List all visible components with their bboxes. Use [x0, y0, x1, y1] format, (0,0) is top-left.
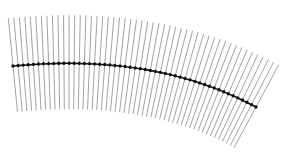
curve-dot — [250, 103, 253, 106]
curve-dot — [236, 96, 239, 99]
curve-dot — [93, 62, 96, 65]
curve-dot — [62, 62, 65, 65]
curve-dot — [139, 67, 142, 70]
curve-dot — [72, 62, 75, 65]
curve-dot — [159, 71, 162, 74]
curve-dot — [42, 62, 45, 65]
curve-dot — [188, 78, 191, 81]
curve-dot — [154, 70, 157, 73]
curve-dot — [231, 94, 234, 97]
curve-dot — [108, 63, 111, 66]
curve-dot — [178, 75, 181, 78]
curve-dot — [27, 63, 30, 66]
curve-dot — [208, 85, 211, 88]
curve-dot — [37, 62, 40, 65]
curve-dot — [245, 101, 248, 104]
curve-dot — [67, 62, 70, 65]
curve-dot — [169, 73, 172, 76]
curve-dot — [144, 68, 147, 71]
curve-dot — [174, 74, 177, 77]
curve-dot — [217, 88, 220, 91]
curve-dot — [52, 62, 55, 65]
curve-dot — [88, 62, 91, 65]
curve-dot — [241, 98, 244, 101]
curve-dot — [134, 66, 137, 69]
curve-dot — [103, 63, 106, 66]
curve-dot — [193, 80, 196, 83]
curve-dot — [123, 65, 126, 68]
curve-dot — [98, 63, 101, 66]
curve-dot — [113, 64, 116, 67]
curve-dot — [164, 72, 167, 75]
curve-dot — [254, 105, 257, 108]
curve-dot — [11, 64, 14, 67]
curve-dot — [222, 90, 225, 93]
curve-dot — [227, 92, 230, 95]
curve-dot — [118, 64, 121, 67]
curve-dot — [16, 64, 19, 67]
curve-normals-diagram — [0, 0, 282, 162]
curve-dot — [32, 63, 35, 66]
curve-dot — [213, 86, 216, 89]
curve-dot — [57, 62, 60, 65]
curve-dot — [128, 65, 131, 68]
curve-dot — [183, 77, 186, 80]
curve-dot — [83, 62, 86, 65]
normal-lines — [8, 15, 278, 147]
curve-dot — [198, 81, 201, 84]
curve-dot — [149, 69, 152, 72]
curve-dot — [21, 63, 24, 66]
curve-dot — [203, 83, 206, 86]
curve-dot — [47, 62, 50, 65]
curve-dot — [78, 62, 81, 65]
